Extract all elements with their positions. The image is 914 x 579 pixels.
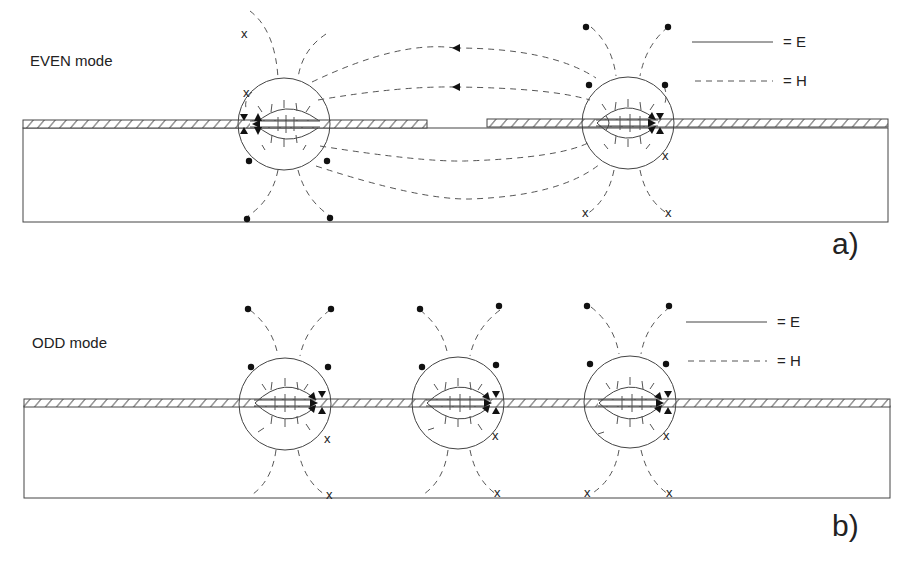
x-marker: x — [662, 148, 669, 163]
h-dot-marker — [496, 303, 502, 309]
x-marker: x — [324, 431, 331, 446]
h-dot-marker — [493, 362, 499, 368]
h-dot-marker — [663, 361, 669, 367]
slot-field-left-a — [238, 11, 330, 216]
legend-e-label: = E — [783, 33, 806, 50]
h-dot-marker — [327, 215, 333, 221]
x-marker: x — [666, 485, 673, 500]
panel-label-a: a) — [832, 227, 859, 260]
x-marker: x — [665, 205, 672, 220]
conductor-left-a — [23, 120, 427, 128]
h-dot-marker — [584, 303, 590, 309]
x-marker: x — [492, 428, 499, 443]
h-dot-marker — [324, 158, 330, 164]
h-dot-marker — [419, 364, 425, 370]
x-marker: x — [326, 487, 333, 502]
x-marker: x — [582, 205, 589, 220]
legend-b: = E = H — [686, 313, 801, 369]
h-dot-marker — [245, 306, 251, 312]
substrate-b — [24, 406, 890, 498]
h-dot-marker — [662, 82, 668, 88]
h-dot-marker — [417, 306, 423, 312]
h-dot-marker — [665, 24, 671, 30]
panel-a-even-mode: EVEN mode — [23, 11, 888, 260]
h-dot-marker — [246, 158, 252, 164]
h-dot-marker — [583, 24, 589, 30]
h-dot-marker — [325, 364, 331, 370]
x-marker: x — [243, 85, 250, 100]
x-marker: x — [663, 428, 670, 443]
slotline-field-diagram: EVEN mode — [0, 0, 914, 579]
conductor-right-a — [487, 119, 888, 127]
h-dot-marker — [328, 306, 334, 312]
even-mode-label: EVEN mode — [30, 52, 113, 69]
x-marker: x — [584, 485, 591, 500]
h-dot-marker — [244, 216, 250, 222]
h-dot-marker — [248, 364, 254, 370]
h-dot-marker — [587, 361, 593, 367]
panel-label-b: b) — [832, 509, 859, 542]
x-marker: x — [241, 26, 248, 41]
substrate-a — [23, 128, 888, 222]
h-dot-marker — [666, 303, 672, 309]
panel-b-odd-mode: ODD mode — [24, 303, 890, 542]
legend-h-label: = H — [783, 72, 807, 89]
legend-e-label: = E — [777, 313, 800, 330]
legend-h-label: = H — [777, 352, 801, 369]
x-marker: x — [494, 485, 501, 500]
h-dot-marker — [586, 82, 592, 88]
odd-mode-label: ODD mode — [32, 334, 107, 351]
legend-a: = E = H — [692, 33, 807, 89]
